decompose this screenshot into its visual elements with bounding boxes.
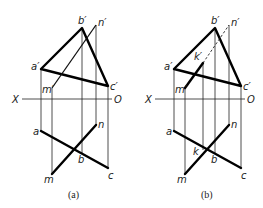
label-c-prime: c′ bbox=[110, 81, 118, 92]
label-m-prime: m′ bbox=[42, 84, 55, 95]
label-b: b bbox=[78, 154, 84, 165]
label-n-prime: n′ bbox=[98, 17, 107, 28]
label-a: a bbox=[166, 126, 172, 137]
projection-diagram: X O b′ n′ a′ m′ c′ a n b c m (a) X O bbox=[0, 0, 263, 208]
label-a-prime: a′ bbox=[31, 61, 40, 72]
label-k-prime: k′ bbox=[194, 51, 203, 62]
axis-label-x: X bbox=[11, 94, 20, 105]
caption-a: (a) bbox=[68, 189, 79, 201]
label-b-prime: b′ bbox=[211, 15, 220, 26]
triangle-front-view bbox=[174, 28, 241, 86]
axis-label-x: X bbox=[144, 94, 153, 105]
label-a: a bbox=[33, 126, 39, 137]
label-n: n bbox=[98, 119, 104, 130]
panel-b: X O b′ n′ k′ a′ m′ c′ a n k b c m (b) bbox=[144, 15, 255, 201]
line-mn-top-view bbox=[52, 125, 96, 174]
label-c: c bbox=[108, 170, 114, 181]
label-m: m bbox=[44, 174, 54, 185]
label-c: c bbox=[241, 170, 247, 181]
label-n-prime: n′ bbox=[231, 17, 240, 28]
label-m: m bbox=[177, 174, 187, 185]
line-mn-top-view bbox=[185, 125, 229, 174]
label-b-prime: b′ bbox=[78, 15, 87, 26]
triangle-front-view bbox=[41, 28, 108, 86]
label-a-prime: a′ bbox=[164, 61, 173, 72]
label-m-prime: m′ bbox=[175, 84, 188, 95]
label-k: k bbox=[193, 146, 200, 157]
label-b: b bbox=[211, 154, 217, 165]
caption-b: (b) bbox=[201, 189, 213, 201]
axis-label-o: O bbox=[114, 94, 122, 105]
label-c-prime: c′ bbox=[243, 81, 251, 92]
label-n: n bbox=[231, 119, 237, 130]
panel-a: X O b′ n′ a′ m′ c′ a n b c m (a) bbox=[11, 15, 122, 201]
axis-label-o: O bbox=[247, 94, 255, 105]
